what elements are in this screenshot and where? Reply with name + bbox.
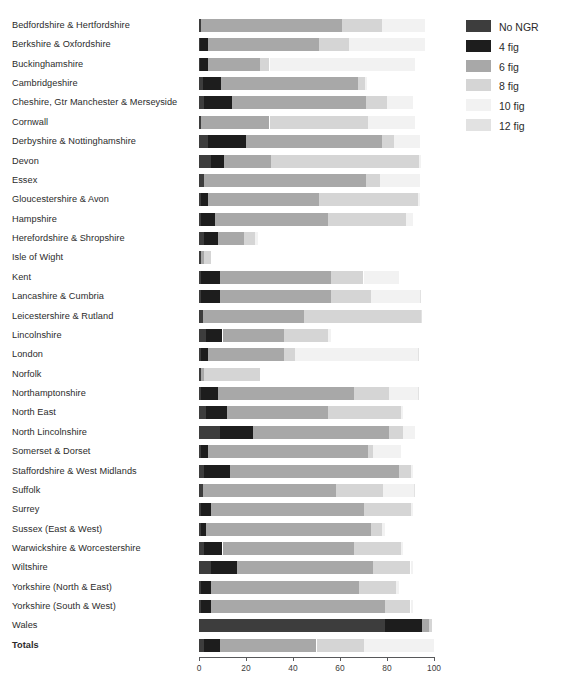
- legend-item[interactable]: No NGR: [466, 18, 561, 38]
- stacked-bar: [199, 116, 434, 129]
- bar-segment-6-fig: [208, 445, 368, 458]
- chart-row: Herefordshire & Shropshire: [0, 229, 445, 248]
- category-label: Herefordshire & Shropshire: [12, 229, 192, 248]
- bar-segment-4-fig: [204, 639, 220, 652]
- bar-segment-6-fig: [206, 523, 371, 536]
- bar-segment-8-fig: [271, 155, 419, 168]
- bar-segment-6-fig: [211, 600, 385, 613]
- bar-segment-6-fig: [227, 406, 328, 419]
- bar-segment-6-fig: [211, 581, 359, 594]
- legend-item[interactable]: 12 fig: [466, 117, 561, 137]
- category-label: Lincolnshire: [12, 326, 192, 345]
- chart-legend: No NGR4 fig6 fig8 fig10 fig12 fig: [466, 18, 561, 137]
- stacked-bar: [199, 445, 434, 458]
- bar-segment-8-fig: [204, 368, 260, 381]
- bar-segment-8-fig: [336, 484, 383, 497]
- chart-row: Cheshire, Gtr Manchester & Merseyside: [0, 93, 445, 112]
- legend-label: No NGR: [499, 18, 539, 38]
- bar-segment-no-ngr: [199, 426, 220, 439]
- bar-segment-6-fig: [220, 290, 330, 303]
- stacked-bar: [199, 251, 434, 264]
- bar-segment-6-fig: [253, 426, 389, 439]
- category-label: Sussex (East & West): [12, 520, 192, 539]
- bar-segment-10-fig: [270, 58, 416, 71]
- stacked-bar: [199, 348, 434, 361]
- stacked-bar: [199, 387, 434, 400]
- chart-row: Staffordshire & West Midlands: [0, 462, 445, 481]
- bar-segment-8-fig: [385, 600, 411, 613]
- bar-segment-6-fig: [204, 174, 366, 187]
- stacked-bar: [199, 193, 434, 206]
- x-axis-tick: [293, 657, 294, 661]
- bar-segment-10-fig: [368, 116, 415, 129]
- bar-segment-10-fig: [418, 193, 420, 206]
- chart-row: Totals: [0, 636, 445, 655]
- stacked-bar: [199, 639, 434, 652]
- bar-segment-10-fig: [411, 600, 413, 613]
- legend-label: 6 fig: [499, 58, 519, 78]
- stacked-bar: [199, 484, 434, 497]
- x-axis-tick-label: 20: [241, 663, 250, 673]
- stacked-bar: [199, 368, 434, 381]
- bar-segment-8-fig: [354, 387, 389, 400]
- stacked-bar: [199, 232, 434, 245]
- x-axis-tick: [434, 657, 435, 661]
- bar-segment-4-fig: [201, 445, 208, 458]
- chart-row: Northamptonshire: [0, 384, 445, 403]
- plot-area: Bedfordshire & HertfordshireBerkshire & …: [0, 16, 445, 650]
- category-label: Warwickshire & Worcestershire: [12, 539, 192, 558]
- bar-segment-10-fig: [328, 329, 330, 342]
- stacked-bar: [199, 503, 434, 516]
- bar-segment-4-fig: [211, 155, 224, 168]
- x-axis-tick: [199, 657, 200, 661]
- stacked-bar: [199, 174, 434, 187]
- x-axis-tick: [340, 657, 341, 661]
- category-label: Wiltshire: [12, 558, 192, 577]
- stacked-bar: [199, 58, 434, 71]
- x-axis-tick-label: 0: [197, 663, 202, 673]
- bar-segment-4-fig: [201, 503, 210, 516]
- bar-segment-8-fig: [359, 581, 397, 594]
- chart-row: Berkshire & Oxfordshire: [0, 35, 445, 54]
- chart-row: Surrey: [0, 500, 445, 519]
- bar-segment-10-fig: [382, 19, 424, 32]
- cut-off-header-text: [0, 0, 561, 5]
- bar-segment-10-fig: [371, 290, 420, 303]
- chart-row: Gloucestershire & Avon: [0, 190, 445, 209]
- bar-segment-10-fig: [419, 155, 421, 168]
- bar-segment-6-fig: [208, 38, 318, 51]
- bar-segment-8-fig: [366, 174, 380, 187]
- bar-segment-8-fig: [319, 193, 418, 206]
- bar-segment-no-ngr: [199, 406, 206, 419]
- bar-segment-4-fig: [201, 581, 210, 594]
- legend-item[interactable]: 8 fig: [466, 77, 561, 97]
- stacked-bar: [199, 619, 434, 632]
- category-label: Hampshire: [12, 210, 192, 229]
- bar-segment-10-fig: [411, 465, 413, 478]
- bar-segment-6-fig: [201, 19, 342, 32]
- stacked-bar: [199, 542, 434, 555]
- bar-segment-no-ngr: [199, 619, 385, 632]
- bar-segment-12-fig: [414, 484, 415, 497]
- bar-segment-6-fig: [218, 387, 354, 400]
- x-axis-tick: [387, 657, 388, 661]
- category-label: Wales: [12, 616, 192, 635]
- legend-label: 8 fig: [499, 77, 519, 97]
- bar-segment-6-fig: [208, 58, 260, 71]
- bar-segment-10-fig: [406, 213, 413, 226]
- legend-item[interactable]: 4 fig: [466, 38, 561, 58]
- bar-segment-10-fig: [396, 581, 398, 594]
- bar-segment-6-fig: [224, 155, 271, 168]
- category-label: Lancashire & Cumbria: [12, 287, 192, 306]
- stacked-bar: [199, 290, 434, 303]
- chart-row: Wales: [0, 616, 445, 635]
- legend-item[interactable]: 10 fig: [466, 97, 561, 117]
- legend-label: 10 fig: [499, 97, 525, 117]
- bar-segment-6-fig: [221, 77, 357, 90]
- legend-item[interactable]: 6 fig: [466, 58, 561, 78]
- bar-segment-8-fig: [331, 290, 371, 303]
- legend-swatch-icon: [466, 60, 491, 72]
- bar-segment-6-fig: [201, 116, 269, 129]
- stacked-bar: [199, 426, 434, 439]
- bar-segment-8-fig: [270, 116, 369, 129]
